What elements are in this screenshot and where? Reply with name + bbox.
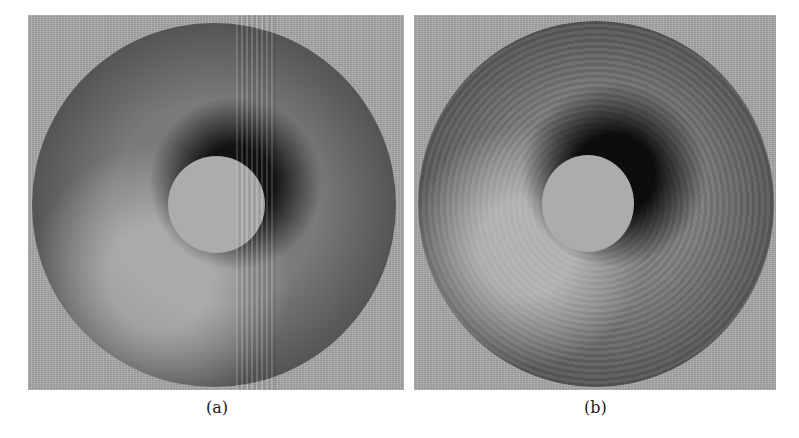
panel-label-a: (a) — [206, 398, 228, 417]
figure-panel-a — [28, 15, 404, 390]
streak-artifact — [236, 15, 276, 390]
torus-hole-b — [542, 155, 634, 252]
panel-label-b: (b) — [584, 398, 607, 417]
figure-panel-b — [414, 15, 776, 390]
